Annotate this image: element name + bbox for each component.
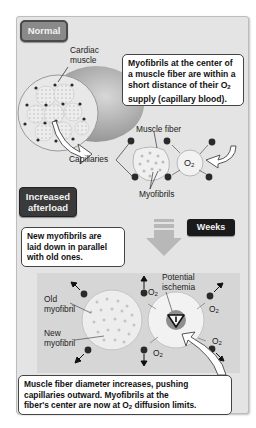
cardiac-muscle-label: Cardiac muscle [70, 45, 99, 65]
myofibrils-label: Myofibrils [139, 189, 174, 199]
afterload-callout: New myofibrils are laid down in parallel… [21, 227, 125, 267]
weeks-down-arrow-icon [146, 219, 182, 256]
normal-fiber-detail [116, 132, 215, 189]
o2-label-bottom-right: O2 [212, 336, 222, 348]
muscle-fiber-label: Muscle fiber [136, 124, 181, 134]
afterload-callout-line1: New myofibrils are [27, 231, 119, 242]
bottom-callout: Muscle fiber diameter increases, pushing… [18, 375, 232, 415]
cardiac-label-line2: muscle [70, 55, 99, 65]
cardiac-label-line1: Cardiac [70, 45, 99, 55]
o2-label-top-right: O2 [209, 304, 219, 316]
normal-callout-line4: supply (capillary blood). [128, 94, 238, 105]
afterload-callout-line3: with old ones. [27, 252, 119, 263]
increased-afterload-label: Increased afterload [19, 187, 77, 217]
normal-o2-label: O2 [184, 158, 194, 170]
capillaries-label: Capillaries [69, 154, 108, 164]
callout-pointer-icon [206, 146, 236, 168]
normal-callout-line1: Myofibrils at the center of [128, 58, 238, 69]
normal-callout: Myofibrils at the center of a muscle fib… [122, 54, 244, 106]
hypertrophied-fiber-detail [70, 276, 224, 366]
normal-label: Normal [20, 20, 68, 42]
afterload-label-line1: Increased [20, 191, 76, 202]
weeks-label: Weeks [187, 219, 235, 236]
o2-label-top-left: O2 [148, 287, 158, 299]
new-myofibril-label: New myofibril [44, 328, 75, 348]
bottom-callout-line2: capillaries outward. Myofibrils at the [24, 390, 226, 401]
normal-callout-line3: short distance of their O2 [128, 80, 238, 93]
old-myofibril-label: Old myofibril [44, 294, 75, 314]
o2-label-bottom-left: O2 [153, 348, 163, 360]
afterload-label-line2: afterload [20, 202, 76, 213]
bottom-callout-line3: fiber's center are now at O2 diffusion l… [24, 400, 226, 413]
bottom-callout-line1: Muscle fiber diameter increases, pushing [24, 379, 226, 390]
normal-callout-line2: a muscle fiber are within a [128, 69, 238, 80]
afterload-callout-line2: laid down in parallel [27, 242, 119, 253]
potential-ischemia-label: Potential ischemia [162, 272, 195, 292]
hypertrophied-muscle-fiber [82, 290, 142, 350]
